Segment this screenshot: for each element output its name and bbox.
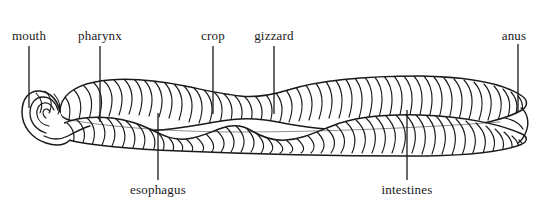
label-mouth: mouth (12, 29, 46, 42)
anus-inner-line (505, 118, 523, 129)
label-esophagus: esophagus (130, 183, 186, 196)
worm-anatomy-figure: mouth pharynx crop gizzard anus esophagu… (0, 0, 538, 222)
label-anus: anus (502, 29, 527, 42)
label-intestines: intestines (381, 183, 432, 196)
label-pharynx: pharynx (78, 29, 122, 42)
label-crop: crop (201, 29, 225, 42)
label-gizzard: gizzard (254, 29, 294, 42)
worm-body (22, 76, 528, 156)
